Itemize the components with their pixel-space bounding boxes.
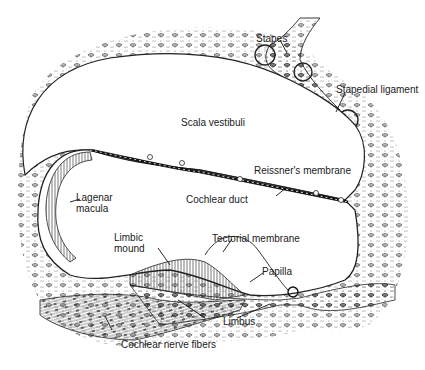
label-scala-vestibuli: Scala vestibuli: [181, 117, 245, 128]
label-stapes: Stapes: [256, 33, 287, 44]
label-tectorial-membrane: Tectorial membrane: [212, 233, 300, 244]
label-limbus: Limbus: [223, 316, 255, 327]
papilla-structure: [288, 287, 298, 297]
label-limbic-mound: Limbic mound: [114, 232, 145, 254]
label-papilla: Papilla: [262, 266, 292, 277]
label-stapedial-ligament: Stapedial ligament: [336, 84, 418, 95]
label-cochlear-nerve-fibers: Cochlear nerve fibers: [121, 339, 216, 350]
cochlea-diagram: [0, 0, 425, 370]
label-cochlear-duct: Cochlear duct: [186, 194, 248, 205]
label-lagenar-macula: Lagenar macula: [76, 192, 113, 214]
label-reissners-membrane: Reissner's membrane: [254, 165, 351, 176]
